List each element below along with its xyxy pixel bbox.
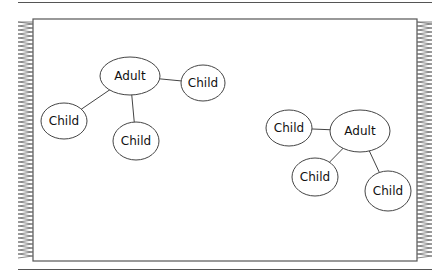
group-left-child1-label: Child <box>188 76 218 90</box>
group-right-child3-label: Child <box>373 184 403 198</box>
right-zigzag-border <box>417 22 432 258</box>
group-left-child2-label: Child <box>49 114 79 128</box>
group-left-child3-label: Child <box>121 134 151 148</box>
left-zigzag-border <box>18 22 33 258</box>
group-right-child1-label: Child <box>274 121 304 135</box>
group-right-child2-label: Child <box>300 170 330 184</box>
group-left-adult-label: Adult <box>114 69 145 83</box>
group-right-adult-label: Adult <box>344 124 375 138</box>
diagram-canvas <box>0 0 448 279</box>
